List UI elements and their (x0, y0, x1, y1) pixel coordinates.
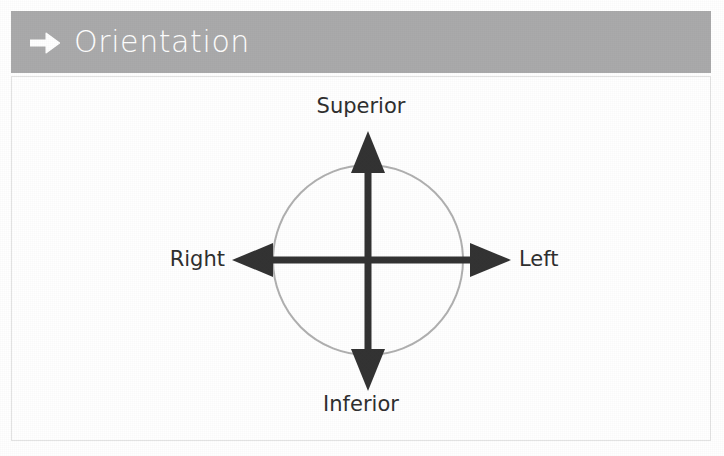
right-arrowhead (232, 243, 273, 277)
arrow-right-icon (30, 32, 60, 54)
slide-title-bar: Orientation (11, 11, 711, 73)
slide-canvas: Orientation Superior Inferior Right Left (0, 0, 724, 456)
inferior-arrowhead (351, 349, 385, 391)
label-right: Right (161, 249, 225, 270)
label-inferior: Inferior (11, 394, 711, 415)
superior-arrowhead (351, 131, 385, 173)
orientation-axes-graphic (11, 76, 711, 441)
left-arrowhead (470, 243, 511, 277)
page-title: Orientation (74, 27, 250, 57)
label-superior: Superior (11, 96, 711, 117)
label-left: Left (519, 249, 559, 270)
orientation-diagram: Superior Inferior Right Left (11, 76, 711, 441)
